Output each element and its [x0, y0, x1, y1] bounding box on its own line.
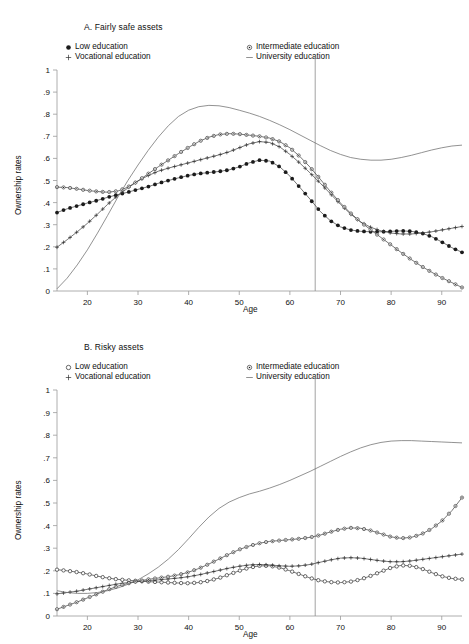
y-tick-label: .9 [43, 409, 50, 418]
x-tick-label: 30 [134, 623, 143, 632]
x-tick-label: 20 [83, 298, 92, 307]
x-tick-label: 50 [235, 623, 244, 632]
y-tick-label: .1 [43, 589, 50, 598]
panel-b-plot: 1.9.8.7.6.5.4.3.2.102030405060708090 [0, 322, 469, 644]
series-university-education [57, 105, 462, 288]
panel-a-plot: 1.9.8.7.6.5.4.3.2.102030405060708090 [0, 0, 469, 322]
series-intermediate-education [55, 496, 463, 611]
y-tick-label: .2 [43, 567, 50, 576]
y-tick-label: 0 [46, 287, 51, 296]
x-tick-label: 20 [83, 623, 92, 632]
y-tick-label: .2 [43, 243, 50, 252]
y-tick-label: .6 [43, 476, 50, 485]
series-low-education [55, 158, 464, 254]
y-tick-label: .9 [43, 88, 50, 97]
y-tick-label: .7 [43, 132, 50, 141]
series-low-education [55, 564, 463, 585]
y-tick-label: .5 [43, 177, 50, 186]
x-tick-label: 40 [184, 623, 193, 632]
x-tick-label: 50 [235, 298, 244, 307]
y-tick-label: 1 [46, 386, 51, 395]
x-tick-label: 80 [387, 298, 396, 307]
y-tick-label: 1 [46, 66, 51, 75]
x-tick-label: 70 [336, 623, 345, 632]
y-tick-label: .3 [43, 544, 50, 553]
y-tick-label: .3 [43, 221, 50, 230]
y-tick-label: .4 [43, 199, 50, 208]
x-tick-label: 40 [184, 298, 193, 307]
series-intermediate-education [55, 132, 463, 289]
panel-b-risky-assets: B. Risky assets Low education Vocational… [0, 322, 469, 644]
y-tick-label: .6 [43, 154, 50, 163]
x-tick-label: 60 [285, 623, 294, 632]
y-tick-label: .5 [43, 499, 50, 508]
x-tick-label: 90 [437, 298, 446, 307]
y-tick-label: .4 [43, 522, 50, 531]
y-tick-label: .8 [43, 431, 50, 440]
y-tick-label: 0 [46, 612, 51, 621]
x-tick-label: 90 [437, 623, 446, 632]
y-tick-label: .1 [43, 265, 50, 274]
x-tick-label: 30 [134, 298, 143, 307]
x-tick-label: 70 [336, 298, 345, 307]
series-vocational-education [55, 552, 464, 596]
panel-a-fairly-safe-assets: A. Fairly safe assets Low education Voca… [0, 0, 469, 322]
figure-root: A. Fairly safe assets Low education Voca… [0, 0, 469, 644]
y-tick-label: .8 [43, 110, 50, 119]
series-university-education [57, 441, 462, 594]
x-tick-label: 80 [387, 623, 396, 632]
y-tick-label: .7 [43, 454, 50, 463]
x-tick-label: 60 [285, 298, 294, 307]
